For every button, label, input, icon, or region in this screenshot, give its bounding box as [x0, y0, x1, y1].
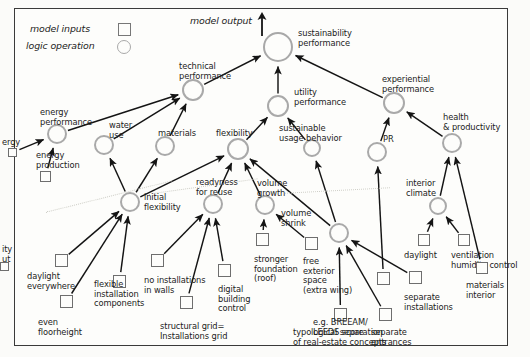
node-label-utility_performance: utility performance	[294, 88, 346, 107]
node-materials[interactable]	[155, 136, 175, 156]
legend-model-inputs-label: model inputs	[30, 24, 90, 34]
input-label-free_exterior_space: free exterior space (extra wing)	[303, 257, 352, 295]
input-label-daylight: daylight	[404, 251, 437, 261]
node-label-health_productivity: health & productivity	[443, 113, 500, 132]
model-output-annotation: model output	[190, 16, 252, 26]
node-initial_flexibility[interactable]	[120, 192, 140, 212]
node-label-water_use: water use	[109, 121, 132, 140]
node-interior_climate[interactable]	[429, 197, 447, 215]
node-label-materials: materials	[158, 129, 196, 139]
input-breeam_leeds_score[interactable]	[377, 272, 390, 285]
node-label-sustainable_usage_behavior: sustainable usage behavior	[279, 124, 342, 143]
input-label-materials_interior: materials interior	[466, 281, 504, 300]
node-label-readyness_for_reuse: readyness for reuse	[196, 178, 238, 197]
node-label-energy_performance: energy performance	[40, 108, 92, 127]
node-utility_performance[interactable]	[267, 95, 289, 117]
input-label-separate_entrances: separate entrances	[371, 328, 411, 347]
input-free_exterior_space[interactable]	[305, 237, 318, 250]
node-volume_shrink[interactable]	[329, 223, 349, 243]
node-flexibility[interactable]	[227, 138, 249, 160]
node-experiential_performance[interactable]	[383, 92, 405, 114]
input-label-energy_production: energy production	[36, 151, 80, 170]
input-label-even_floorheight: even floorheight	[38, 318, 82, 337]
node-technical_performance[interactable]	[182, 79, 204, 101]
node-label-volume_growth: volume growth	[257, 179, 287, 198]
node-label-pr: PR	[383, 135, 394, 145]
diagram-canvas: model inputs logic operation model outpu…	[0, 0, 530, 357]
input-label-stronger_foundation_roof: stronger foundation (roof)	[254, 255, 298, 284]
input-label-utility_clipped: ity ut	[2, 245, 12, 264]
node-label-experiential_performance: experiential performance	[382, 75, 434, 94]
node-label-volume_shrink: volume shrink	[281, 209, 311, 228]
node-label-initial_flexibility: initial flexibility	[144, 193, 181, 212]
input-materials_interior[interactable]	[476, 262, 488, 274]
legend-logic-operation-label: logic operation	[26, 41, 95, 51]
node-label-technical_performance: technical performance	[179, 62, 231, 81]
input-label-structural_grid: structural grid= Installations grid	[160, 322, 227, 341]
node-label-flexibility: flexibility	[216, 129, 253, 139]
input-daylight_everywhere[interactable]	[55, 254, 68, 267]
input-no_installations_in_walls[interactable]	[151, 254, 164, 267]
input-label-no_installations_in_walls: no installations in walls	[144, 276, 206, 295]
input-label-digital_building_control: digital building control	[218, 285, 250, 314]
node-sustainability_performance[interactable]	[263, 32, 293, 62]
input-label-flexible_installation_components: flexible installation components	[94, 280, 144, 309]
legend-circle-icon	[117, 40, 131, 54]
input-label-energy_clipped: ergy	[2, 138, 20, 148]
input-separate_installations[interactable]	[409, 271, 422, 284]
node-label-sustainability_performance: sustainability performance	[298, 29, 352, 48]
input-label-separate_installations: separate installations	[404, 293, 453, 312]
input-stronger_foundation_roof[interactable]	[256, 233, 269, 246]
input-label-breeam_leeds_score: e.g. BREEAM/ LEEDS score	[313, 318, 368, 337]
node-pr[interactable]	[367, 142, 387, 162]
input-structural_grid[interactable]	[180, 296, 193, 309]
input-energy_clipped[interactable]	[8, 148, 17, 157]
node-label-interior_climate: interior climate	[406, 179, 436, 198]
input-label-daylight_everywhere: daylight everywhere	[27, 272, 75, 291]
input-separate_entrances[interactable]	[379, 308, 392, 321]
input-digital_building_control[interactable]	[218, 264, 231, 277]
node-health_productivity[interactable]	[442, 133, 462, 153]
input-even_floorheight[interactable]	[60, 295, 73, 308]
input-daylight[interactable]	[418, 234, 430, 246]
legend-square-icon	[118, 23, 131, 36]
input-ventilation_humidity_control[interactable]	[458, 234, 470, 246]
input-energy_production[interactable]	[40, 171, 51, 182]
